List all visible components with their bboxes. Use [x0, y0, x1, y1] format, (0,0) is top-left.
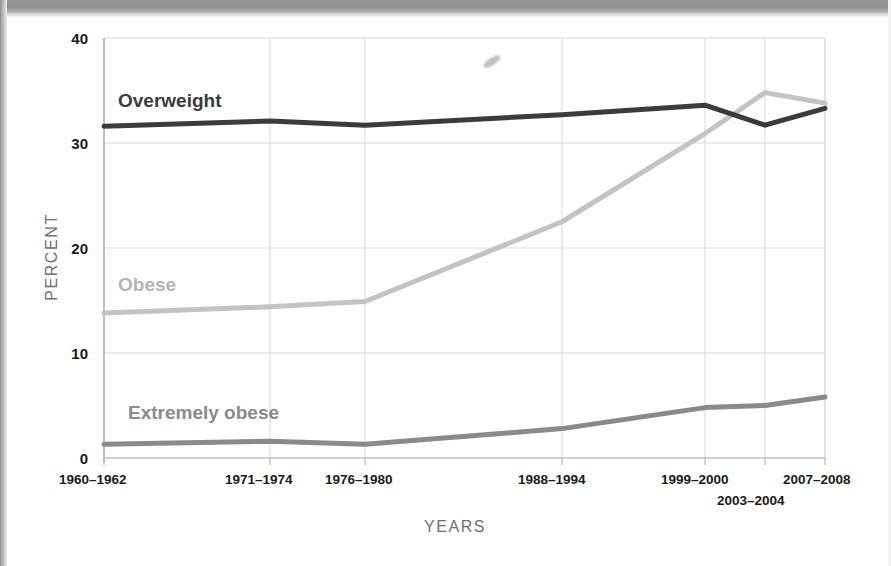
x-axis-title: YEARS: [370, 518, 540, 536]
y-axis-title: PERCENT: [43, 197, 61, 317]
x-tick-2007-2008: 2007–2008: [783, 472, 851, 487]
series-label-overweight: Overweight: [118, 90, 221, 112]
x-tick-1988-1994: 1988–1994: [518, 472, 586, 487]
y-tick-10: 10: [44, 345, 88, 362]
y-tick-40: 40: [44, 30, 88, 47]
series-paths: [104, 93, 825, 445]
chart-page: 40 30 20 10 0 1960–1962 1971–1974 1976–1…: [0, 0, 891, 566]
y-tick-30: 30: [44, 135, 88, 152]
x-tick-1971-1974: 1971–1974: [225, 472, 293, 487]
y-tick-0: 0: [44, 450, 88, 467]
series-line-obese: [104, 93, 825, 314]
series-label-extremely-obese: Extremely obese: [128, 402, 279, 424]
x-tick-marks: [104, 458, 825, 465]
x-tick-1976-1980: 1976–1980: [325, 472, 393, 487]
x-tick-2003-2004: 2003–2004: [717, 493, 785, 508]
x-tick-1999-2000: 1999–2000: [661, 472, 729, 487]
series-label-obese: Obese: [118, 274, 176, 296]
x-tick-1960-1962: 1960–1962: [59, 472, 127, 487]
